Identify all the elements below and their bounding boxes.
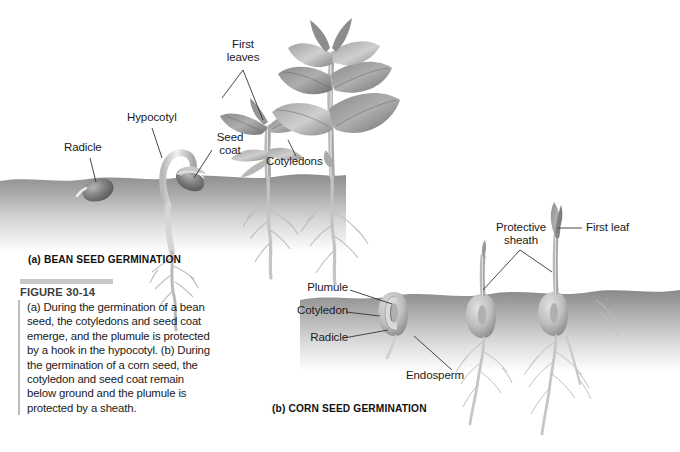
- label-plumule: Plumule: [276, 281, 348, 294]
- label-radicle-corn: Radicle: [278, 331, 348, 344]
- caption-top-rule: [20, 279, 113, 284]
- label-protective-sheath: Protective sheath: [481, 221, 561, 247]
- bean-stage-1: [77, 175, 117, 206]
- label-cotyledon: Cotyledon: [264, 304, 348, 317]
- panel-b-soil: [300, 290, 680, 372]
- panel-b-caption: (b) CORN SEED GERMINATION: [272, 403, 427, 414]
- figure-30-14: Radicle Hypocotyl First leaves Seed coat…: [0, 0, 680, 452]
- panel-b-leader-lines: [344, 228, 582, 370]
- label-seed-coat: Seed coat: [207, 131, 253, 157]
- bean-stage-3: [220, 98, 314, 278]
- caption-body-wrapper: (a) During the germination of a bean see…: [18, 300, 214, 415]
- panel-a-soil: [0, 174, 346, 252]
- label-endosperm: Endosperm: [406, 369, 464, 382]
- label-first-leaf: First leaf: [586, 221, 629, 234]
- figure-caption-block: FIGURE 30-14 (a) During the germination …: [18, 279, 214, 415]
- label-hypocotyl: Hypocotyl: [127, 111, 177, 124]
- label-radicle-bean: Radicle: [64, 141, 102, 154]
- figure-caption-text: (a) During the germination of a bean see…: [27, 300, 214, 415]
- bean-stage-4: [272, 18, 400, 284]
- label-first-leaves: First leaves: [214, 38, 272, 64]
- corn-stage-1: [378, 292, 408, 358]
- corn-stage-2: [456, 240, 512, 424]
- figure-number: FIGURE 30-14: [18, 286, 214, 298]
- panel-a-caption: (a) BEAN SEED GERMINATION: [28, 254, 181, 265]
- label-cotyledons: Cotyledons: [266, 155, 323, 168]
